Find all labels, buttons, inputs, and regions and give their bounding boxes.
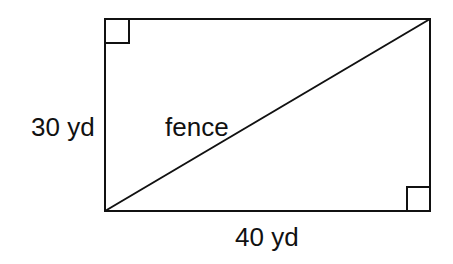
left-side-label: 30 yd <box>31 112 95 142</box>
diagonal-label: fence <box>165 112 229 142</box>
bottom-side-label: 40 yd <box>235 222 299 252</box>
right-angle-marker-top-left <box>105 19 129 43</box>
rectangle-diagram: 30 yd fence 40 yd <box>0 0 453 264</box>
right-angle-marker-bottom-right <box>407 187 430 211</box>
fence-diagonal <box>105 19 430 211</box>
